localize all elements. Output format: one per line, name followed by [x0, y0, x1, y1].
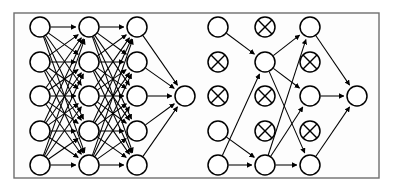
network-unit [79, 121, 99, 141]
network-unit [208, 155, 228, 175]
network-unit [127, 86, 147, 106]
network-unit [30, 52, 50, 72]
dropped-unit [208, 52, 228, 72]
network-unit [30, 17, 50, 37]
dropped-unit [255, 121, 275, 141]
network-unit [79, 155, 99, 175]
network-unit [208, 17, 228, 37]
network-unit [127, 121, 147, 141]
network-unit [79, 52, 99, 72]
network-diagram-canvas [0, 0, 399, 193]
dropped-unit [300, 121, 320, 141]
network-unit [208, 121, 228, 141]
dropout-figure [0, 0, 399, 193]
dropped-unit [208, 86, 228, 106]
network-unit [300, 155, 320, 175]
network-unit [175, 86, 195, 106]
network-unit [30, 86, 50, 106]
network-unit [300, 17, 320, 37]
dropped-unit [255, 17, 275, 37]
network-unit [127, 17, 147, 37]
network-unit [79, 86, 99, 106]
network-unit [255, 52, 275, 72]
dropped-unit [300, 52, 320, 72]
network-unit [127, 52, 147, 72]
network-unit [30, 155, 50, 175]
dropped-unit [255, 86, 275, 106]
network-unit [127, 155, 147, 175]
network-unit [347, 86, 367, 106]
network-unit [79, 17, 99, 37]
network-unit [30, 121, 50, 141]
network-unit [300, 86, 320, 106]
network-unit [255, 155, 275, 175]
